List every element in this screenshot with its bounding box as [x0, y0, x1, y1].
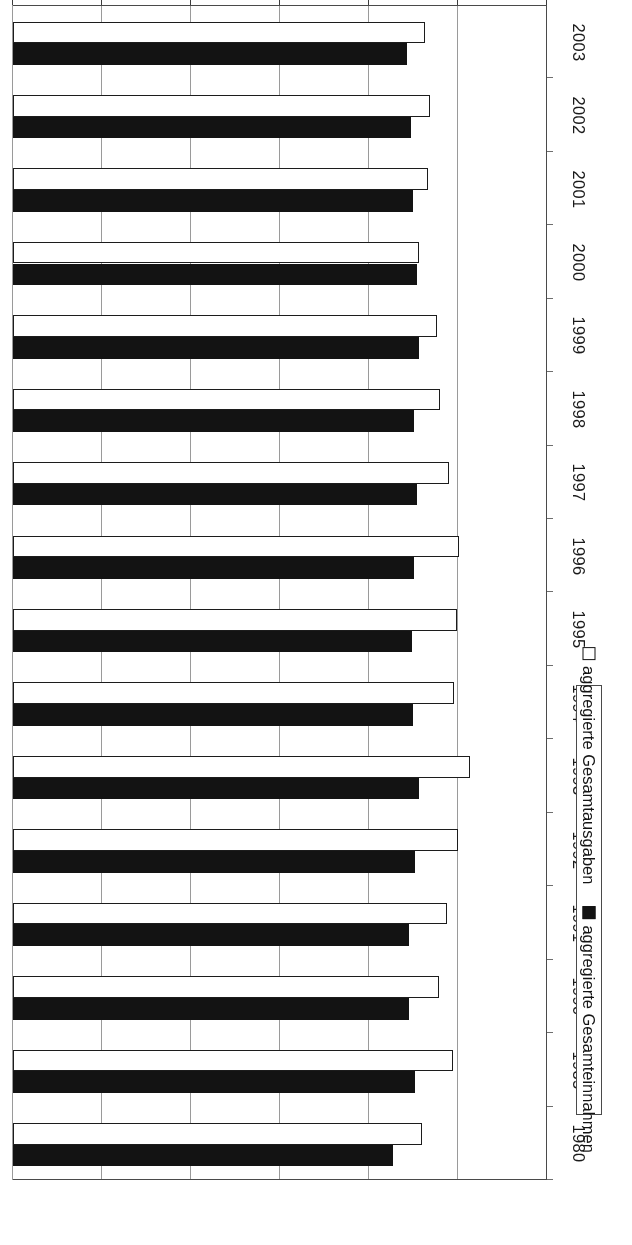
category-label: 2002: [570, 86, 589, 146]
category-tick: [547, 1032, 553, 1033]
bar-income: [13, 484, 417, 506]
bar-income: [13, 337, 419, 359]
bar-income: [13, 264, 417, 286]
category-label: 1998: [570, 379, 589, 439]
bar-group: [13, 299, 547, 372]
category-tick: [547, 77, 553, 78]
value-tick-label: 20: [359, 0, 379, 1]
bar-group: [13, 152, 547, 225]
bar-spending: [13, 609, 457, 631]
legend-swatch-hollow-square-icon: [583, 647, 596, 660]
category-tick: [547, 959, 553, 960]
value-tick-label: 0: [537, 0, 557, 1]
bar-income: [13, 998, 409, 1020]
bar-income: [13, 631, 412, 653]
bar-group: [13, 1033, 547, 1106]
value-tick-label: 10: [448, 0, 468, 1]
bar-spending: [13, 682, 454, 704]
category-tick: [547, 812, 553, 813]
legend-item: aggregierte Gesamteinnahmen: [580, 906, 599, 1152]
legend-label: aggregierte Gesamtausgaben: [580, 666, 599, 884]
category-label: 2000: [570, 233, 589, 293]
category-tick: [547, 298, 553, 299]
bar-income: [13, 43, 407, 65]
bar-spending: [13, 1050, 453, 1072]
bar-income: [13, 851, 415, 873]
bar-income: [13, 704, 414, 726]
category-tick: [547, 371, 553, 372]
category-tick: [547, 1179, 553, 1180]
bar-group: [13, 666, 547, 739]
bar-group: [13, 593, 547, 666]
bar-income: [13, 778, 419, 800]
legend-swatch-filled-square-icon: [583, 906, 596, 919]
bar-group: [13, 1107, 547, 1180]
bar-group: [13, 78, 547, 151]
bar-spending: [13, 389, 440, 411]
category-tick: [547, 885, 553, 886]
category-tick: [547, 1106, 553, 1107]
bar-group: [13, 225, 547, 298]
category-label: 1996: [570, 526, 589, 586]
bar-group: [13, 446, 547, 519]
value-tick-label: 30: [270, 0, 290, 1]
category-label: 1997: [570, 453, 589, 513]
category-label: 1999: [570, 306, 589, 366]
bar-group: [13, 886, 547, 959]
bar-group: [13, 372, 547, 445]
bars-layer: [13, 5, 547, 1180]
value-tick-label: 60: [3, 0, 23, 1]
chart-legend: aggregierte Gesamtausgabenaggregierte Ge…: [576, 685, 602, 1115]
bar-group: [13, 813, 547, 886]
bar-spending: [13, 315, 437, 337]
bar-spending: [13, 829, 458, 851]
bar-income: [13, 190, 413, 212]
value-tick-label: 50: [92, 0, 112, 1]
bar-spending: [13, 1123, 422, 1145]
bar-group: [13, 5, 547, 78]
bar-spending: [13, 462, 449, 484]
value-tick-label: 40: [181, 0, 201, 1]
bar-spending: [13, 756, 470, 778]
bar-income: [13, 410, 414, 432]
category-tick: [547, 592, 553, 593]
category-label: 2001: [570, 159, 589, 219]
bar-spending: [13, 95, 430, 117]
bar-income: [13, 557, 414, 579]
chart-figure: 0102030405060 19801985199019911992199319…: [0, 0, 632, 1245]
category-tick: [547, 224, 553, 225]
category-tick: [547, 518, 553, 519]
category-tick: [547, 665, 553, 666]
bar-spending: [13, 536, 459, 558]
bar-spending: [13, 168, 428, 190]
category-tick: [547, 445, 553, 446]
bar-income: [13, 1071, 415, 1093]
legend-label: aggregierte Gesamteinnahmen: [580, 925, 599, 1152]
category-label: 2003: [570, 12, 589, 72]
bar-spending: [13, 242, 419, 264]
bar-group: [13, 519, 547, 592]
bar-income: [13, 1145, 393, 1167]
bar-income: [13, 117, 411, 139]
bar-spending: [13, 976, 439, 998]
bar-group: [13, 960, 547, 1033]
bar-spending: [13, 903, 447, 925]
bar-income: [13, 924, 409, 946]
legend-item: aggregierte Gesamtausgaben: [580, 647, 599, 884]
category-tick: [547, 738, 553, 739]
category-tick: [547, 151, 553, 152]
bar-spending: [13, 22, 425, 44]
bar-group: [13, 739, 547, 812]
